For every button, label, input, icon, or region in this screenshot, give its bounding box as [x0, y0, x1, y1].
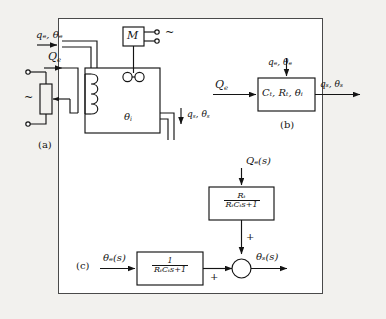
tank-temp-subscript: i — [130, 115, 132, 122]
rheostat-body — [40, 84, 52, 114]
ac-source-symbol-icon: ~ — [165, 27, 174, 38]
inlet-label: qₑ, θₑ — [36, 30, 63, 40]
theta-e-s-label: θₑ(s) — [103, 253, 126, 263]
block-b-top-input-label: qₑ, θₑ — [268, 58, 292, 67]
block-b-input-symbol: Q — [215, 78, 224, 91]
upper-numerator: Rₜ — [224, 192, 260, 200]
motor-label: M — [127, 30, 138, 41]
ac-supply-symbol-icon: ~ — [24, 92, 33, 103]
ac-terminal-bottom — [26, 122, 30, 126]
summing-sign-left: + — [210, 272, 218, 282]
upper-fraction: Rₜ RₜCₜs+1 — [224, 192, 260, 209]
motor-terminal-bottom — [155, 39, 159, 43]
block-b-input-subscript: e — [224, 84, 228, 92]
summing-junction — [232, 259, 251, 278]
inlet-pipe-inner — [62, 47, 91, 68]
heat-input-symbol: Q — [48, 50, 57, 63]
lower-fraction: 1 RₜCₜs+1 — [152, 257, 188, 274]
summing-sign-top: + — [246, 232, 254, 242]
ac-lead-bottom — [30, 114, 46, 124]
caption-b: (b) — [280, 120, 294, 130]
heater-coil — [91, 74, 98, 114]
heat-input-label: Qe — [48, 51, 61, 63]
outlet-temp-subscript: s — [207, 113, 210, 119]
caption-a: (a) — [38, 140, 52, 150]
block-b-output-label: qₛ, θₛ — [320, 80, 343, 89]
block-b-label: Cₜ, Rₜ, θᵢ — [262, 88, 303, 98]
rheostat-wiper-lead — [70, 99, 78, 113]
outlet-pipe-inner — [160, 119, 168, 140]
qe-s-label: Qₑ(s) — [246, 156, 271, 166]
stirrer-blade-left — [123, 72, 132, 81]
inlet-pipe-outer — [62, 41, 97, 68]
caption-c: (c) — [76, 261, 89, 271]
lower-numerator: 1 — [152, 257, 188, 265]
outlet-pipe-outer — [160, 113, 174, 140]
motor-terminal-top — [155, 30, 159, 34]
outlet-label: qs, θs — [187, 110, 210, 120]
block-c-lower-transfer-function: 1 RₜCₜs+1 — [139, 257, 201, 274]
heat-input-subscript: e — [57, 56, 61, 64]
block-c-upper-transfer-function: Rₜ RₜCₜs+1 — [211, 192, 272, 209]
block-b-left-input-label: Qe — [215, 79, 228, 91]
tank-temperature-label: θi — [124, 112, 132, 123]
theta-s-s-output-label: θₛ(s) — [256, 252, 278, 262]
upper-denominator: RₜCₜs+1 — [224, 200, 260, 209]
lower-denominator: RₜCₜs+1 — [152, 265, 188, 274]
diagram-a-group — [26, 27, 181, 140]
stirrer-blade-right — [135, 72, 144, 81]
ac-terminal-top — [26, 70, 30, 74]
